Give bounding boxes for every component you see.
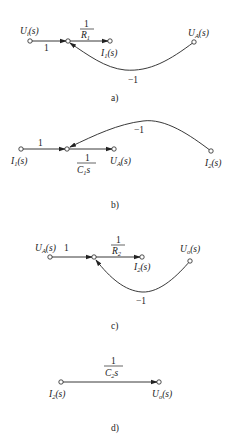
node-feedback: [188, 259, 192, 263]
label-input: UA(s): [35, 243, 56, 254]
gain-num: 1: [116, 235, 121, 245]
gain-num: 1: [85, 153, 90, 163]
label-feedback: Uo(s): [180, 244, 200, 255]
node-sum: [66, 39, 70, 43]
label-input: I1(s): [10, 156, 27, 167]
node-output: [108, 39, 112, 43]
node-input: [28, 39, 32, 43]
gain-num: 1: [84, 19, 89, 29]
gain-den: C2s: [105, 368, 119, 379]
node-feedback: [192, 40, 196, 44]
signal-flow-graphs: Ui(s) 1 1 R1 I1(s) UA(s) −1 a) 1 I1(s) 1…: [0, 0, 232, 437]
node-output: [157, 380, 161, 384]
node-sum: [65, 147, 69, 151]
label-output: I2(s): [133, 262, 150, 273]
gain-feedback: −1: [136, 296, 146, 306]
diagram-b: 1 I1(s) 1 C1s UA(s) −1 I2(s) b): [10, 121, 221, 211]
caption-c: c): [111, 321, 118, 332]
gain-forward1: 1: [38, 138, 43, 148]
gain-den: R2: [111, 246, 122, 257]
gain-num: 1: [111, 356, 116, 366]
label-output: UA(s): [110, 156, 131, 167]
label-input: I2(s): [48, 389, 65, 400]
caption-a: a): [111, 93, 118, 104]
label-feedback: UA(s): [188, 28, 209, 39]
node-feedback: [209, 149, 213, 153]
caption-b: b): [111, 200, 119, 211]
node-input: [19, 147, 23, 151]
node-input: [48, 255, 52, 259]
feedback-branch: [70, 42, 194, 70]
label-output: I1(s): [100, 48, 117, 59]
label-output: Uo(s): [152, 389, 172, 400]
label-input: Ui(s): [20, 26, 39, 37]
node-sum: [92, 255, 96, 259]
caption-d: d): [111, 423, 119, 434]
node-input: [59, 380, 63, 384]
gain-feedback: −1: [128, 75, 138, 85]
gain-den: R1: [80, 30, 90, 41]
gain-den: C1s: [77, 165, 91, 176]
gain-forward1: 1: [64, 243, 69, 253]
diagram-d: 1 C2s I2(s) Uo(s) d): [48, 356, 172, 434]
diagram-a: Ui(s) 1 1 R1 I1(s) UA(s) −1 a): [20, 19, 209, 104]
diagram-c: UA(s) 1 1 R2 I2(s) Uo(s) −1 c): [35, 235, 200, 332]
gain-forward1: 1: [44, 43, 49, 53]
gain-feedback: −1: [134, 125, 144, 135]
node-output: [112, 147, 116, 151]
node-output: [140, 255, 144, 259]
label-feedback: I2(s): [204, 158, 221, 169]
